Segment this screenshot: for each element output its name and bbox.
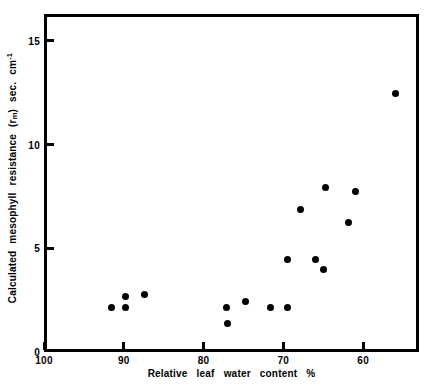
x-axis-label-percent-sign: %	[306, 368, 315, 379]
data-point	[108, 304, 115, 311]
data-point	[312, 256, 319, 263]
data-point	[242, 298, 249, 305]
y-axis-label-symbol-subscript: m	[10, 112, 19, 119]
y-axis-tick-label: 15	[28, 35, 40, 46]
data-point	[345, 219, 352, 226]
x-axis-tick	[282, 342, 285, 350]
y-axis-label-container: Calculated mesophyll resistance (rm) sec…	[0, 0, 24, 355]
x-axis-label-word-content: content	[260, 368, 298, 379]
x-axis-label-word-leaf: leaf	[197, 368, 215, 379]
data-point	[322, 184, 329, 191]
x-axis-label-word-water: water	[224, 368, 251, 379]
x-axis-tick	[122, 342, 125, 350]
x-axis-tick-label: 70	[277, 355, 289, 366]
y-axis-tick-label: 5	[34, 243, 40, 254]
data-point	[267, 304, 274, 311]
y-axis-label-unit-cm: cm	[7, 59, 18, 74]
data-point	[224, 320, 231, 327]
y-axis-label-unit-sec: sec.	[7, 81, 18, 101]
data-point	[122, 304, 129, 311]
y-axis-tick-label: 10	[28, 139, 40, 150]
x-axis-tick	[362, 342, 365, 350]
x-axis-label-word-relative: Relative	[148, 368, 188, 379]
data-point	[141, 291, 148, 298]
data-point	[320, 266, 327, 273]
data-point	[122, 293, 129, 300]
data-point	[223, 304, 230, 311]
y-axis-label-word-calculated: Calculated	[7, 250, 18, 303]
data-points-layer	[47, 17, 416, 349]
x-axis-tick-label: 80	[198, 355, 210, 366]
y-axis-label: Calculated mesophyll resistance (rm) sec…	[5, 52, 19, 302]
y-axis-tick	[46, 39, 54, 42]
x-axis-tick-label: 100	[35, 355, 53, 366]
data-point	[284, 256, 291, 263]
x-axis-tick-label: 90	[118, 355, 130, 366]
data-point	[284, 304, 291, 311]
x-axis-tick	[43, 342, 46, 350]
plot-area	[44, 14, 419, 352]
y-axis-label-symbol-close: )	[7, 108, 18, 112]
x-axis-label: Relative leaf water content %	[44, 368, 419, 379]
scatter-plot-figure: Calculated mesophyll resistance (rm) sec…	[0, 0, 436, 387]
y-axis-label-word-resistance: resistance	[7, 133, 18, 184]
y-axis-tick	[46, 247, 54, 250]
x-axis-tick-label: 60	[357, 355, 369, 366]
x-axis-tick	[202, 342, 205, 350]
y-axis-label-symbol-open: (r	[7, 119, 18, 127]
data-point	[352, 188, 359, 195]
data-point	[392, 90, 399, 97]
y-axis-label-unit-exponent: -1	[5, 52, 14, 59]
data-point	[297, 206, 304, 213]
y-axis-tick	[46, 143, 54, 146]
y-axis-label-word-mesophyll: mesophyll	[7, 192, 18, 243]
